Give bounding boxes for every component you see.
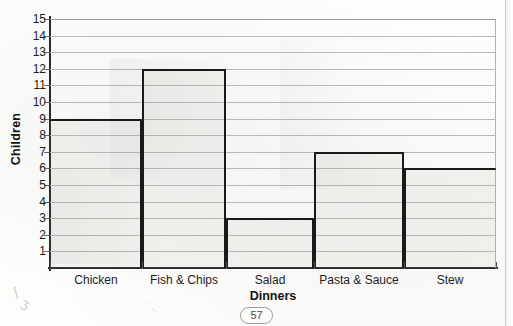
bar-fill [50,119,142,268]
y-axis-tick-label: 1 [4,245,46,257]
bar-left-edge [226,218,228,268]
x-axis-tick [142,262,143,269]
bar-chicken [50,119,142,268]
page-margin-shadow [506,0,513,326]
bar-fill [226,218,314,268]
y-axis-tick-label: 14 [4,30,46,42]
bar-top-edge [50,119,142,121]
bar-fill [314,152,404,268]
gridline [50,85,496,86]
category-label-chicken: Chicken [50,273,142,287]
bar-fill [404,168,496,268]
y-axis-tick-label: 4 [4,196,46,208]
y-axis-tick-label: 2 [4,229,46,241]
plot-area [50,19,496,268]
page-number: 57 [0,305,513,324]
x-axis-tick [404,262,405,269]
plot-top-border [50,19,496,20]
x-axis-tick [496,262,497,269]
bar-top-edge [226,218,314,220]
bar-left-edge [314,152,316,268]
x-axis-tick [314,262,315,269]
bar-fish-chips [142,69,226,268]
y-axis-tick-labels: 151413121110987654321 [0,0,46,326]
bar-stew [404,168,496,268]
x-axis-title: Dinners [50,289,496,303]
category-label-pasta-sauce: Pasta & Sauce [314,273,404,287]
category-label-fish-chips: Fish & Chips [142,273,226,287]
y-axis-tick-label: 3 [4,212,46,224]
bar-top-edge [142,69,226,71]
bar-pasta-sauce [314,152,404,268]
bar-fill [142,69,226,268]
y-axis-tick-label: 15 [4,13,46,25]
y-axis-tick-label: 12 [4,63,46,75]
bar-top-edge [314,152,404,154]
gridline [50,69,496,70]
x-axis-tick [226,262,227,269]
category-label-stew: Stew [404,273,496,287]
bar-left-edge [404,168,406,268]
bar-salad [226,218,314,268]
y-axis-tick-label: 13 [4,46,46,58]
gridline [50,36,496,37]
page-number-badge: 57 [240,307,272,324]
y-axis-title: Children [9,84,23,194]
category-label-salad: Salad [226,273,314,287]
bar-left-edge [142,69,144,268]
gridline [50,52,496,53]
gridline [50,102,496,103]
x-axis-tick [50,262,51,269]
